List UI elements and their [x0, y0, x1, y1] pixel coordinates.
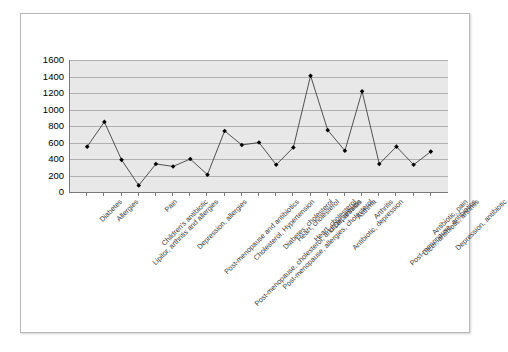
y-axis-tick-label: 0: [24, 187, 64, 197]
x-axis-tick: [275, 193, 276, 196]
data-point-marker: [308, 73, 313, 78]
x-axis-tick: [121, 193, 122, 196]
x-axis-tick-label: Pain: [163, 198, 179, 214]
x-axis-tick: [224, 193, 225, 196]
y-axis-tick-label: 800: [24, 121, 64, 131]
plot-area: [69, 60, 448, 193]
x-axis-tick: [258, 193, 259, 196]
series-line: [87, 76, 431, 186]
line-chart: 16001400120010008006004002000DiabetesAll…: [21, 14, 469, 332]
x-axis-tick: [430, 193, 431, 196]
y-axis-tick-label: 1400: [24, 72, 64, 82]
x-axis-tick: [86, 193, 87, 196]
x-axis-tick: [395, 193, 396, 196]
x-axis-tick: [155, 193, 156, 196]
x-axis-tick: [103, 193, 104, 196]
y-axis-tick-label: 600: [24, 138, 64, 148]
x-axis-tick: [241, 193, 242, 196]
x-axis-tick: [189, 193, 190, 196]
x-axis-tick: [378, 193, 379, 196]
x-axis-tick: [138, 193, 139, 196]
series-overlay: [70, 60, 448, 192]
y-axis-tick-label: 200: [24, 171, 64, 181]
x-axis-tick: [292, 193, 293, 196]
y-axis-tick-label: 1000: [24, 105, 64, 115]
y-axis-tick-label: 1200: [24, 88, 64, 98]
y-axis-tick-label: 1600: [24, 55, 64, 65]
chart-frame: 16001400120010008006004002000DiabetesAll…: [20, 13, 470, 333]
x-axis-tick: [206, 193, 207, 196]
x-axis-tick: [361, 193, 362, 196]
data-point-marker: [171, 164, 176, 169]
x-axis-tick: [172, 193, 173, 196]
x-axis-tick: [413, 193, 414, 196]
data-point-marker: [360, 89, 365, 94]
x-axis-tick: [327, 193, 328, 196]
y-axis-tick-label: 400: [24, 154, 64, 164]
x-axis-tick: [344, 193, 345, 196]
x-axis-tick: [310, 193, 311, 196]
